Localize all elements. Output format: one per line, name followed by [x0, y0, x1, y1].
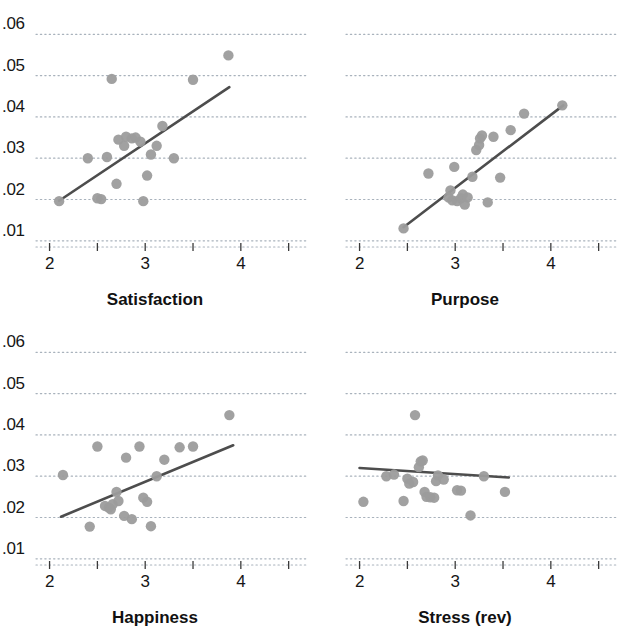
data-point: [107, 74, 117, 84]
data-point: [467, 172, 477, 182]
data-point: [151, 471, 161, 481]
data-point: [135, 136, 145, 146]
y-tick-label-.05: .05: [2, 375, 25, 392]
data-point: [146, 149, 156, 159]
data-point: [483, 197, 493, 207]
regression-line: [404, 105, 564, 227]
x-tick-label-4: 4: [531, 573, 571, 590]
y-tick-label-.02: .02: [2, 181, 25, 198]
data-point: [58, 470, 68, 480]
data-point: [389, 469, 399, 479]
panel-satisfaction: .01.02.03.04.05.06234Satisfaction: [0, 0, 310, 318]
data-point: [92, 441, 102, 451]
x-tick-label-3: 3: [435, 255, 475, 272]
data-point: [169, 153, 179, 163]
scatter-plot-figure: .01.02.03.04.05.06234Satisfaction234Purp…: [0, 0, 621, 637]
data-point: [134, 441, 144, 451]
x-tick-label-2: 2: [340, 573, 380, 590]
x-tick-label-2: 2: [30, 255, 70, 272]
panel-purpose: 234Purpose: [310, 0, 620, 318]
data-point: [557, 100, 567, 110]
gridlines: [36, 352, 307, 558]
data-point: [127, 514, 137, 524]
data-point: [151, 141, 161, 151]
gridlines: [346, 352, 617, 558]
x-tick-label-2: 2: [340, 255, 380, 272]
y-tick-label-.01: .01: [2, 540, 25, 557]
x-tick-label-4: 4: [531, 255, 571, 272]
data-point: [188, 441, 198, 451]
data-point: [398, 223, 408, 233]
data-point: [223, 50, 233, 60]
x-tick-label-4: 4: [221, 573, 261, 590]
data-point: [439, 474, 449, 484]
data-point: [495, 172, 505, 182]
data-point: [111, 487, 121, 497]
y-tick-label-.03: .03: [2, 457, 25, 474]
data-point: [83, 153, 93, 163]
data-point: [445, 185, 455, 195]
data-point: [111, 179, 121, 189]
data-point: [138, 196, 148, 206]
panel-x-axis-title: Purpose: [310, 291, 620, 308]
y-tick-label-.04: .04: [2, 416, 25, 433]
data-point: [449, 162, 459, 172]
y-tick-label-.02: .02: [2, 499, 25, 516]
data-point: [157, 121, 167, 131]
data-point: [142, 170, 152, 180]
data-points: [358, 410, 510, 521]
y-tick-label-.01: .01: [2, 222, 25, 239]
data-point: [224, 410, 234, 420]
data-point: [85, 521, 95, 531]
data-point: [142, 497, 152, 507]
data-points: [58, 410, 235, 532]
data-point: [505, 125, 515, 135]
data-point: [119, 141, 129, 151]
data-point: [488, 132, 498, 142]
panel-x-axis-title: Happiness: [0, 609, 310, 626]
y-tick-label-.06: .06: [2, 333, 25, 350]
y-tick-label-.05: .05: [2, 57, 25, 74]
data-point: [398, 496, 408, 506]
data-point: [408, 477, 418, 487]
data-point: [417, 455, 427, 465]
data-point: [429, 492, 439, 502]
panel-x-axis-title: Satisfaction: [0, 291, 310, 308]
data-point: [477, 130, 487, 140]
data-point: [102, 152, 112, 162]
data-point: [358, 497, 368, 507]
data-point: [159, 454, 169, 464]
x-tick-label-3: 3: [125, 255, 165, 272]
data-point: [113, 496, 123, 506]
x-tick-label-4: 4: [221, 255, 261, 272]
panel-happiness: .01.02.03.04.05.06234Happiness: [0, 318, 310, 636]
y-tick-label-.06: .06: [2, 15, 25, 32]
x-tick-label-2: 2: [30, 573, 70, 590]
data-point: [188, 75, 198, 85]
data-point: [121, 452, 131, 462]
data-point: [500, 487, 510, 497]
data-point: [54, 196, 64, 206]
panel-stress-rev: 234Stress (rev): [310, 318, 620, 636]
data-point: [465, 510, 475, 520]
data-point: [479, 471, 489, 481]
data-point: [174, 442, 184, 452]
data-point: [519, 108, 529, 118]
data-point: [410, 410, 420, 420]
data-point: [456, 485, 466, 495]
panel-x-axis-title: Stress (rev): [310, 609, 620, 626]
x-tick-label-3: 3: [125, 573, 165, 590]
y-tick-label-.04: .04: [2, 98, 25, 115]
data-point: [423, 168, 433, 178]
data-points: [54, 50, 234, 206]
data-point: [96, 194, 106, 204]
x-tick-label-3: 3: [435, 573, 475, 590]
data-point: [146, 521, 156, 531]
data-point: [462, 192, 472, 202]
gridlines: [36, 34, 307, 240]
y-tick-label-.03: .03: [2, 139, 25, 156]
